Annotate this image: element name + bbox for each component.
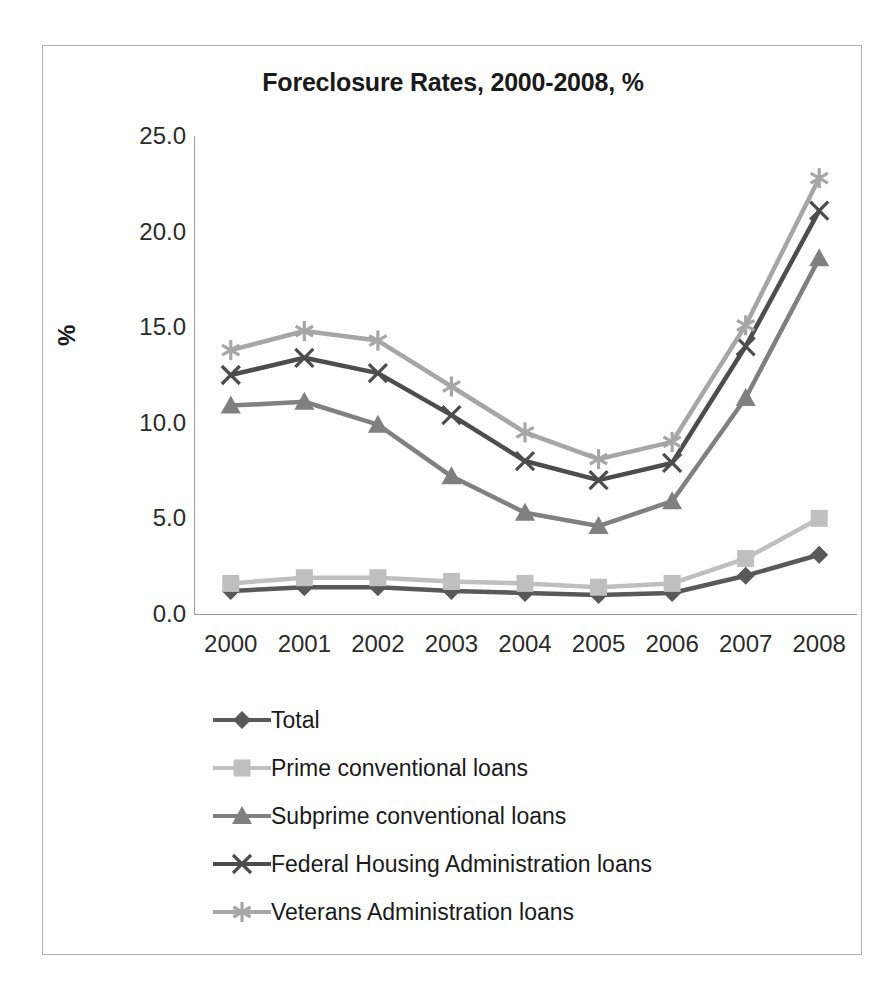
legend-marker-icon — [230, 756, 254, 780]
data-point-square — [517, 575, 534, 592]
data-point-triangle — [809, 248, 829, 266]
data-point-x — [233, 855, 251, 873]
data-point-square — [737, 550, 754, 567]
y-axis-tick-label: 20.0 — [86, 218, 186, 246]
legend-item[interactable]: Total — [213, 696, 853, 744]
legend-swatch-diamond-icon — [213, 709, 271, 731]
plot-area — [194, 136, 856, 614]
legend-swatch-asterisk-icon — [213, 901, 271, 923]
legend-swatch-x-icon — [213, 853, 271, 875]
x-axis-line — [194, 614, 857, 615]
y-axis-tick-label: 15.0 — [86, 313, 186, 341]
legend-label: Subprime conventional loans — [271, 805, 566, 828]
legend-item[interactable]: Federal Housing Administration loans — [213, 840, 853, 888]
y-axis-tick-label: 5.0 — [86, 504, 186, 532]
series-1 — [222, 510, 827, 596]
chart-title: Foreclosure Rates, 2000-2008, % — [43, 68, 863, 97]
data-point-square — [811, 510, 828, 527]
y-axis-tick-labels: 0.05.010.015.020.025.0 — [81, 136, 186, 614]
data-point-asterisk — [443, 376, 460, 396]
x-axis-tick-label: 2008 — [774, 630, 864, 658]
data-point-square — [664, 575, 681, 592]
legend-item[interactable]: Subprime conventional loans — [213, 792, 853, 840]
legend-marker-icon — [230, 900, 254, 924]
data-point-x — [442, 406, 460, 424]
data-point-asterisk — [233, 902, 250, 922]
series-2 — [221, 248, 829, 534]
legend-item[interactable]: Prime conventional loans — [213, 744, 853, 792]
y-axis-title: % — [53, 325, 81, 346]
legend-label: Prime conventional loans — [271, 757, 528, 780]
data-point-diamond — [737, 567, 755, 585]
data-point-diamond — [810, 546, 828, 564]
legend-marker-icon — [230, 804, 254, 828]
legend-label: Federal Housing Administration loans — [271, 853, 652, 876]
series-layer — [194, 136, 856, 614]
legend-swatch-triangle-icon — [213, 805, 271, 827]
chart-legend: TotalPrime conventional loansSubprime co… — [213, 696, 853, 936]
data-point-triangle — [736, 388, 756, 406]
series-line — [231, 258, 819, 526]
data-point-triangle — [232, 806, 252, 824]
legend-swatch-square-icon — [213, 757, 271, 779]
data-point-asterisk — [811, 168, 828, 188]
legend-marker-icon — [230, 852, 254, 876]
series-4 — [222, 168, 828, 469]
data-point-square — [296, 569, 313, 586]
legend-label: Total — [271, 709, 320, 732]
data-point-x — [810, 202, 828, 220]
chart-container: Foreclosure Rates, 2000-2008, % % 0.05.0… — [42, 45, 862, 955]
data-point-diamond — [233, 711, 251, 729]
data-point-square — [234, 760, 251, 777]
data-point-x — [737, 337, 755, 355]
data-point-square — [222, 575, 239, 592]
legend-label: Veterans Administration loans — [271, 901, 574, 924]
x-axis-tick-labels: 200020012002200320042005200620072008 — [194, 630, 856, 670]
y-axis-tick-label: 0.0 — [86, 600, 186, 628]
y-axis-tick-label: 25.0 — [86, 122, 186, 150]
legend-item[interactable]: Veterans Administration loans — [213, 888, 853, 936]
data-point-square — [369, 569, 386, 586]
data-point-square — [590, 579, 607, 596]
data-point-square — [443, 573, 460, 590]
legend-marker-icon — [230, 708, 254, 732]
y-axis-tick-label: 10.0 — [86, 409, 186, 437]
series-3 — [222, 202, 828, 490]
